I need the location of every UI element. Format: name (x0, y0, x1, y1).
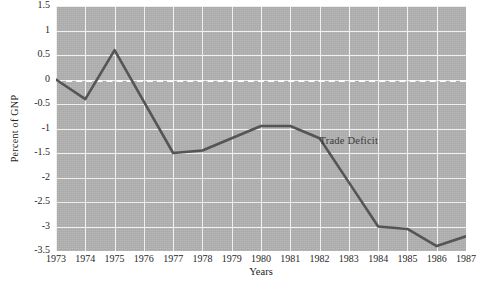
trade-deficit-chart: Percent of GNP Trade Deficit 1.510.50-0.… (0, 0, 478, 283)
plot-area: Trade Deficit (56, 6, 466, 251)
y-tick--1: -1 (8, 122, 50, 133)
y-tick--2: -2 (8, 171, 50, 182)
series-line-trade-deficit (56, 6, 466, 251)
y-tick--0.5: -0.5 (8, 97, 50, 108)
y-tick--2.5: -2.5 (8, 195, 50, 206)
series-path-trade-deficit (56, 50, 466, 246)
y-tick--1.5: -1.5 (8, 146, 50, 157)
y-tick-0: 0 (8, 73, 50, 84)
annotation-trade-deficit: Trade Deficit (320, 135, 379, 146)
x-axis-title: Years (56, 266, 466, 277)
x-tick-1987: 1987 (446, 253, 478, 264)
y-tick--3: -3 (8, 220, 50, 231)
y-tick-1.5: 1.5 (8, 0, 50, 10)
y-tick-1: 1 (8, 24, 50, 35)
y-tick-0.5: 0.5 (8, 48, 50, 59)
